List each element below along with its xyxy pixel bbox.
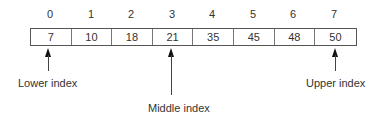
index-label: 1 [71,8,111,20]
upper-pointer-line [335,55,336,71]
array-cell: 45 [234,29,275,45]
middle-pointer-line [171,55,172,95]
middle-index-label: Middle index [148,102,210,114]
index-label: 3 [152,8,192,20]
index-label: 6 [273,8,313,20]
index-label: 7 [314,8,354,20]
array-cell: 18 [112,29,153,45]
array-cell: 7 [31,29,72,45]
array-cell: 21 [153,29,194,45]
array-cell: 10 [72,29,113,45]
array-cell: 50 [315,29,356,45]
upper-index-label: Upper index [306,77,365,89]
index-label: 0 [30,8,70,20]
index-label: 2 [111,8,151,20]
index-label: 5 [233,8,273,20]
index-label: 4 [192,8,232,20]
array-cell: 48 [275,29,316,45]
array-cell: 35 [193,29,234,45]
lower-index-label: Lower index [18,77,77,89]
array-box: 7 10 18 21 35 45 48 50 [30,28,357,46]
lower-pointer-line [48,55,49,71]
